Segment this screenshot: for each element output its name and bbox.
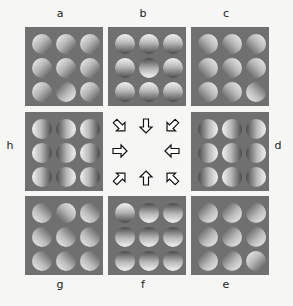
panel-a: [25, 27, 103, 106]
shaded-disc: [139, 34, 159, 54]
shaded-disc: [56, 34, 76, 54]
odd-shaded-disc: [56, 203, 76, 223]
arrow-up-right-icon: [109, 167, 132, 190]
shaded-disc: [56, 167, 76, 187]
shaded-disc: [80, 34, 100, 54]
shaded-disc: [163, 251, 183, 271]
shaded-disc: [246, 167, 266, 187]
arrow-up-left-icon: [161, 167, 184, 190]
shaded-disc: [222, 119, 242, 139]
shaded-disc: [32, 82, 52, 102]
shaded-disc: [198, 227, 218, 247]
odd-shaded-disc: [115, 203, 135, 223]
shaded-disc: [32, 143, 52, 163]
odd-shaded-disc: [246, 251, 266, 271]
shaded-disc: [32, 251, 52, 271]
shaded-disc: [80, 143, 100, 163]
panel-label-a: a: [50, 7, 70, 20]
shaded-disc: [163, 227, 183, 247]
panel-label-g: g: [50, 278, 70, 291]
shaded-disc: [80, 251, 100, 271]
arrow-down-left-icon: [161, 115, 184, 138]
shaded-disc: [222, 58, 242, 78]
arrow-left-icon: [164, 143, 180, 159]
shaded-disc: [56, 58, 76, 78]
shaded-disc: [222, 203, 242, 223]
shaded-disc: [56, 227, 76, 247]
shaded-disc: [198, 58, 218, 78]
shaded-disc: [246, 58, 266, 78]
shaded-disc: [115, 251, 135, 271]
shaded-disc: [222, 34, 242, 54]
arrow-up-icon: [138, 170, 154, 186]
shaded-disc: [246, 227, 266, 247]
shaded-disc: [115, 82, 135, 102]
shaded-disc: [80, 119, 100, 139]
shaded-disc: [198, 82, 218, 102]
shaded-disc: [115, 58, 135, 78]
shaded-disc: [222, 82, 242, 102]
shaded-disc: [246, 34, 266, 54]
arrow-down-right-icon: [109, 115, 132, 138]
panel-e: [191, 196, 269, 275]
shaded-disc: [198, 251, 218, 271]
shaded-disc: [163, 34, 183, 54]
shaded-disc: [163, 58, 183, 78]
shaded-disc: [139, 203, 159, 223]
shaded-disc: [32, 119, 52, 139]
shaded-disc: [32, 167, 52, 187]
panel-label-c: c: [216, 7, 236, 20]
shaded-disc: [80, 82, 100, 102]
odd-shaded-disc: [246, 82, 266, 102]
shaded-disc: [32, 227, 52, 247]
shaded-disc: [198, 34, 218, 54]
shaded-disc: [32, 34, 52, 54]
panel-label-f: f: [133, 278, 153, 291]
panel-label-e: e: [216, 278, 236, 291]
shaded-disc: [198, 119, 218, 139]
odd-shaded-disc: [56, 82, 76, 102]
panel-d: [191, 112, 269, 191]
shaded-disc: [198, 203, 218, 223]
shaded-disc: [80, 227, 100, 247]
shaded-disc: [246, 119, 266, 139]
shaded-disc: [56, 251, 76, 271]
shaded-disc: [139, 251, 159, 271]
shaded-disc: [80, 203, 100, 223]
shaded-disc: [163, 82, 183, 102]
panel-label-d: d: [268, 139, 288, 152]
shaded-disc: [115, 34, 135, 54]
shaded-disc: [198, 143, 218, 163]
shaded-disc: [139, 82, 159, 102]
shaded-disc: [198, 167, 218, 187]
shaded-disc: [139, 227, 159, 247]
shaded-disc: [115, 227, 135, 247]
shaded-disc: [222, 143, 242, 163]
panel-label-b: b: [133, 7, 153, 20]
shaded-disc: [246, 143, 266, 163]
shaded-disc: [80, 58, 100, 78]
shaded-disc: [56, 119, 76, 139]
odd-shaded-disc: [139, 58, 159, 78]
panel-h: [25, 112, 103, 191]
panel-f: [108, 196, 186, 275]
shaded-disc: [246, 203, 266, 223]
shaded-disc: [80, 167, 100, 187]
shaded-disc: [56, 143, 76, 163]
shaded-disc: [32, 58, 52, 78]
arrow-down-icon: [138, 118, 154, 134]
shaded-disc: [222, 251, 242, 271]
arrow-right-icon: [112, 143, 128, 159]
shaded-disc: [222, 167, 242, 187]
panel-g: [25, 196, 103, 275]
shaded-disc: [222, 227, 242, 247]
shaded-disc: [163, 203, 183, 223]
panel-b: [108, 27, 186, 106]
shaded-disc: [32, 203, 52, 223]
panel-c: [191, 27, 269, 106]
panel-label-h: h: [0, 139, 20, 152]
